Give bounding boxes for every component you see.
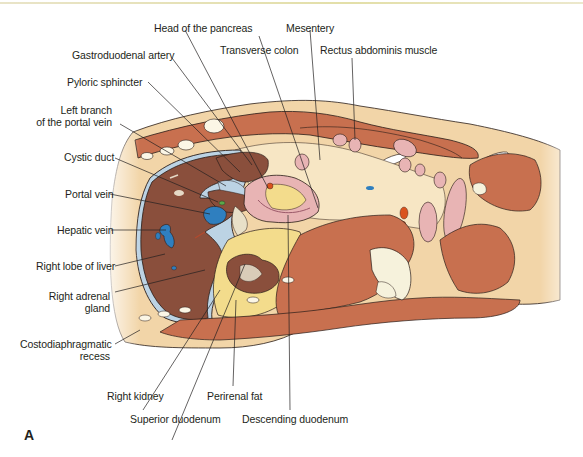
label-perirenal-fat: Perirenal fat: [207, 390, 262, 402]
label-left-branch-line2: of the portal vein: [36, 116, 112, 128]
label-left-branch-line1: Left branch: [36, 104, 112, 116]
label-gastroduodenal-artery: Gastroduodenal artery: [72, 49, 174, 61]
label-right-kidney: Right kidney: [107, 390, 164, 402]
label-right-adrenal-gland: Right adrenal gland: [40, 290, 110, 314]
label-portal-vein: Portal vein: [65, 188, 114, 200]
label-right-adrenal-line2: gland: [40, 302, 110, 314]
label-hepatic-vein: Hepatic vein: [57, 224, 114, 236]
label-head-of-pancreas: Head of the pancreas: [154, 22, 252, 34]
label-superior-duodenum: Superior duodenum: [130, 413, 221, 425]
label-rectus-abdominis: Rectus abdominis muscle: [320, 44, 437, 56]
label-transverse-colon: Transverse colon: [220, 44, 299, 56]
label-right-adrenal-line1: Right adrenal: [40, 290, 110, 302]
portal-vein-shape: [204, 206, 227, 224]
label-costodiaphragmatic-line1: Costodiaphragmatic: [20, 338, 110, 350]
label-descending-duodenum: Descending duodenum: [242, 413, 348, 425]
label-costodiaphragmatic-line2: recess: [20, 350, 110, 362]
label-left-branch-portal-vein: Left branch of the portal vein: [36, 104, 112, 128]
label-costodiaphragmatic-recess: Costodiaphragmatic recess: [20, 338, 110, 362]
label-pyloric-sphincter: Pyloric sphincter: [67, 76, 142, 88]
label-cystic-duct: Cystic duct: [64, 151, 114, 163]
label-mesentery: Mesentery: [286, 22, 334, 34]
panel-letter: A: [24, 427, 34, 443]
label-right-lobe-liver: Right lobe of liver: [36, 260, 115, 272]
